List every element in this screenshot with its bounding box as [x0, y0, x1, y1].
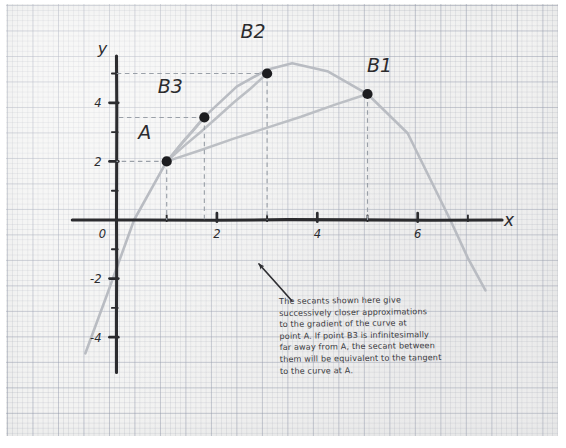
y-tick-label: 4	[94, 96, 101, 110]
data-point-b2[interactable]	[262, 68, 272, 78]
data-point-b3[interactable]	[199, 112, 209, 122]
y-axis-label: y	[97, 39, 108, 58]
x-tick-label: 6	[414, 227, 421, 241]
data-point-b1[interactable]	[362, 89, 372, 99]
point-label-b2: B2	[241, 20, 266, 42]
point-label-layer: AB3B2B1	[136, 20, 392, 144]
x-tick-label: 0	[99, 227, 106, 241]
x-axis	[72, 220, 502, 221]
x-tick-label: 2	[213, 227, 220, 241]
y-tick-label: 2	[94, 155, 101, 169]
point-label-a: A	[136, 121, 151, 143]
x-axis-label: x	[503, 210, 515, 230]
y-tick-label: -4	[90, 331, 101, 345]
y-tick-label: -2	[90, 272, 101, 286]
x-tick-label: 4	[314, 227, 321, 241]
point-label-b3: B3	[158, 75, 183, 97]
graph-plot: xy 0246-4-224 AB3B2B1	[0, 0, 566, 448]
figure-canvas: xy 0246-4-224 AB3B2B1 The secants shown …	[0, 0, 566, 448]
point-label-b1: B1	[367, 54, 392, 76]
explanatory-note: The secants shown here give successively…	[279, 293, 495, 377]
data-point-a[interactable]	[162, 156, 172, 166]
